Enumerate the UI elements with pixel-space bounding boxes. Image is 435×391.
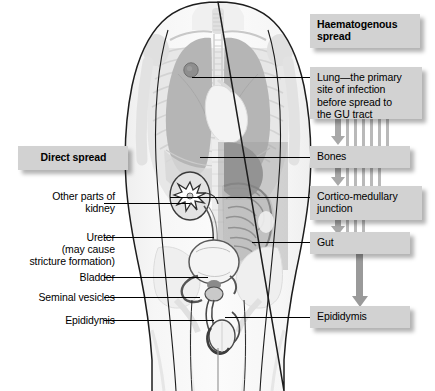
connector-bladder (104, 277, 208, 278)
connector-seminal-vesicles (104, 297, 200, 298)
label-epididymis-left: Epididymis (5, 314, 115, 326)
connector-epididymis-left (104, 320, 214, 321)
box-gut: Gut (310, 232, 410, 254)
haematogenous-spread-header: Haematogenous spread (310, 14, 420, 48)
vessel-group-gut-to-epididymis (352, 254, 376, 308)
connector-gut (252, 242, 312, 243)
arrow-lung-to-bones (335, 119, 341, 137)
arrow-head-bones (331, 136, 345, 145)
anatomy-illustration (118, 0, 318, 391)
label-other-parts-of-kidney: Other parts of kidney (5, 190, 115, 214)
arrow-head-cmj (331, 177, 345, 186)
figure-root: Haematogenous spread Lung—the primary si… (0, 0, 435, 391)
box-bones: Bones (310, 146, 410, 168)
connector-lung (192, 77, 312, 78)
connector-bones (200, 157, 312, 158)
connector-ureter (104, 237, 214, 238)
box-cortico-medullary-junction: Cortico-medullary junction (310, 186, 422, 220)
box-lung: Lung—the primary site of infection befor… (310, 67, 422, 119)
prostate (205, 287, 223, 301)
arrow-gut-to-epididymis (356, 254, 363, 298)
gut-lesion (258, 211, 274, 233)
direct-spread-header: Direct spread (18, 146, 128, 170)
label-ureter: Ureter (may cause stricture formation) (0, 231, 115, 268)
connector-cmj (170, 197, 312, 198)
label-bladder: Bladder (5, 271, 115, 283)
label-seminal-vesicles: Seminal vesicles (0, 291, 115, 303)
torso-body (118, 0, 318, 391)
vessel-group-lung-to-bones (334, 119, 398, 146)
vessel-group-bones-to-cmj (334, 168, 398, 186)
connector-epididymis-right (225, 317, 312, 318)
box-epididymis-right: Epididymis (310, 306, 410, 328)
connector-other-kidney (104, 203, 190, 204)
